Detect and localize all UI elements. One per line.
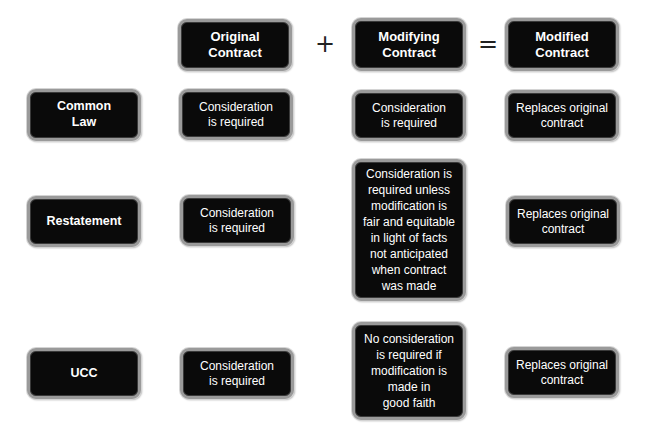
- ucc-original-cell: Consideration is required: [180, 348, 294, 399]
- header-modifying-contract: Modifying Contract: [352, 18, 466, 71]
- header-original-contract: Original Contract: [178, 19, 292, 71]
- restatement-modified-cell: Replaces original contract: [506, 196, 620, 247]
- header-modified-contract: Modified Contract: [505, 18, 619, 71]
- restatement-original-cell: Consideration is required: [180, 195, 294, 246]
- header-modifying-contract-label: Modifying Contract: [378, 29, 439, 61]
- row-label-restatement: Restatement: [27, 196, 141, 247]
- common-law-original-cell: Consideration is required: [179, 89, 293, 140]
- row-label-common-law: Common Law: [27, 89, 141, 141]
- row-label-ucc: UCC: [27, 348, 141, 399]
- ucc-modifying-cell: No consideration is required if modifica…: [352, 322, 466, 420]
- header-modified-contract-label: Modified Contract: [535, 29, 588, 61]
- ucc-modified-cell: Replaces original contract: [505, 347, 619, 398]
- header-original-contract-label: Original Contract: [208, 29, 261, 61]
- plus-operator: +: [313, 32, 337, 56]
- equals-operator: =: [476, 32, 500, 56]
- common-law-modifying-cell: Consideration is required: [352, 90, 466, 141]
- restatement-modifying-cell: Consideration is required unless modific…: [352, 159, 466, 301]
- common-law-modified-cell: Replaces original contract: [505, 90, 619, 141]
